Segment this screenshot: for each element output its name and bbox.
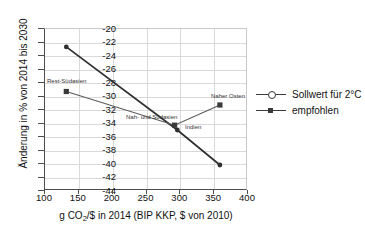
legend: Sollwert für 2°C empfohlen bbox=[256, 86, 362, 118]
y-tick-label: -42 bbox=[72, 172, 116, 182]
y-tick-mark bbox=[38, 136, 44, 137]
y-axis-title: Änderung in % von 2014 bis 2030 bbox=[18, 5, 29, 183]
x-axis-title: g CO2/$ in 2014 (BIP KKP, $ von 2010) bbox=[34, 210, 258, 224]
y-tick-label: -20 bbox=[72, 24, 116, 34]
y-tick-mark bbox=[38, 109, 44, 110]
legend-label-sollwert: Sollwert für 2°C bbox=[292, 89, 362, 100]
y-tick-mark bbox=[38, 28, 44, 29]
x-axis-title-post: /$ in 2014 (BIP KKP, $ von 2010) bbox=[87, 210, 233, 221]
y-tick-mark bbox=[38, 42, 44, 43]
y-tick-label: -24 bbox=[72, 51, 116, 61]
y-tick-label: -26 bbox=[72, 64, 116, 74]
y-tick-mark bbox=[38, 96, 44, 97]
legend-key-square-icon bbox=[256, 105, 286, 115]
gridline-vertical bbox=[147, 29, 148, 189]
legend-item-sollwert[interactable]: Sollwert für 2°C bbox=[256, 86, 362, 102]
y-tick-label: -38 bbox=[72, 145, 116, 155]
y-tick-mark bbox=[38, 123, 44, 124]
y-tick-label: -30 bbox=[72, 91, 116, 101]
y-tick-label: -22 bbox=[72, 37, 116, 47]
point-label-rest-suedasien: Rest-Südasien bbox=[47, 78, 86, 85]
point-label-indien: Indien bbox=[185, 124, 201, 131]
y-tick-mark bbox=[38, 177, 44, 178]
gridline-vertical bbox=[180, 29, 181, 189]
x-axis-title-pre: g CO bbox=[59, 210, 82, 221]
chart-container: -20 -22 -24 -26 -28 -30 -32 -34 -36 -38 … bbox=[0, 0, 365, 235]
legend-item-empfohlen[interactable]: empfohlen bbox=[256, 102, 362, 118]
x-tick-label: 400 bbox=[227, 193, 267, 203]
y-tick-mark bbox=[38, 82, 44, 83]
y-tick-mark bbox=[38, 55, 44, 56]
y-tick-label: -34 bbox=[72, 118, 116, 128]
y-tick-mark bbox=[38, 69, 44, 70]
y-tick-mark bbox=[38, 163, 44, 164]
legend-key-diamond-icon bbox=[256, 89, 286, 99]
y-tick-mark bbox=[38, 150, 44, 151]
point-label-nah-und-suedasien: Nah- und Südasien bbox=[126, 114, 177, 121]
legend-label-empfohlen: empfohlen bbox=[292, 105, 339, 116]
y-tick-label: -32 bbox=[72, 105, 116, 115]
point-label-naher-osten: Naher Osten bbox=[211, 93, 245, 100]
y-tick-label: -36 bbox=[72, 132, 116, 142]
y-tick-label: -40 bbox=[72, 159, 116, 169]
gridline-vertical bbox=[214, 29, 215, 189]
